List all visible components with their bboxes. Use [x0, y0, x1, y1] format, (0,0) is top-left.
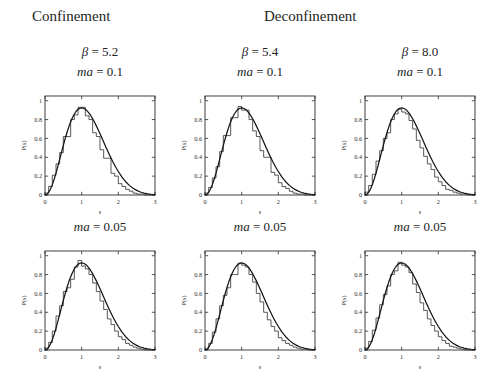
y-axis-label: P(s) [340, 141, 348, 151]
y-tick-label: 0.8 [194, 116, 202, 123]
y-tick-label: 0.8 [354, 116, 362, 123]
x-tick-label: 0 [203, 353, 206, 360]
y-tick-label: 0 [199, 191, 202, 198]
y-tick-label: 0.8 [354, 271, 362, 278]
x-tick-label: 3 [313, 198, 316, 205]
y-axis-label: P(s) [180, 296, 188, 306]
x-tick-label: 0 [43, 198, 46, 205]
y-axis-label: P(s) [180, 141, 188, 151]
plot-panel-p-b80-ma01: 012300.20.40.60.81sP(s) [333, 88, 487, 217]
x-axis-label: s [419, 363, 422, 370]
x-tick-label: 2 [277, 198, 280, 205]
y-tick-label: 0.6 [34, 290, 42, 297]
y-tick-label: 0.8 [34, 116, 42, 123]
y-tick-label: 1 [39, 252, 42, 259]
plot-panel-p-b54-ma01: 012300.20.40.60.81sP(s) [173, 88, 327, 217]
y-tick-label: 0.2 [34, 327, 42, 334]
x-tick-label: 0 [363, 353, 366, 360]
y-tick-label: 0.4 [354, 153, 362, 160]
x-tick-label: 0 [43, 353, 46, 360]
panel-ma-label-p-b54-ma005: ma = 0.05 [200, 219, 320, 235]
x-tick-label: 3 [153, 198, 156, 205]
y-tick-label: 0.6 [194, 135, 202, 142]
panel-beta-label-p-b80-ma01: β = 8.0 [360, 44, 480, 60]
x-tick-label: 1 [400, 353, 403, 360]
y-tick-label: 0.4 [34, 308, 42, 315]
plot-panel-p-b52-ma01: 012300.20.40.60.81sP(s) [13, 88, 167, 217]
x-axis-label: s [99, 363, 102, 370]
y-tick-label: 0.2 [194, 327, 202, 334]
y-tick-label: 0.4 [34, 153, 42, 160]
y-tick-label: 0.4 [194, 153, 202, 160]
y-tick-label: 0.8 [34, 271, 42, 278]
y-tick-label: 1 [359, 252, 362, 259]
y-tick-label: 0 [199, 346, 202, 353]
y-axis-label: P(s) [20, 141, 28, 151]
theory-curve [365, 263, 475, 350]
panel-beta-label-p-b54-ma01: β = 5.4 [200, 44, 320, 60]
x-tick-label: 3 [473, 198, 476, 205]
theory-curve [205, 263, 315, 350]
figure-root: Confinement Deconfinement β = 5.2ma = 0.… [0, 0, 500, 382]
y-tick-label: 0.6 [34, 135, 42, 142]
y-tick-label: 0.2 [354, 172, 362, 179]
y-tick-label: 0.8 [194, 271, 202, 278]
y-tick-label: 0.2 [194, 172, 202, 179]
x-tick-label: 3 [473, 353, 476, 360]
group-title-confinement: Confinement [32, 8, 110, 25]
y-tick-label: 0 [359, 191, 362, 198]
y-tick-label: 0 [39, 191, 42, 198]
x-tick-label: 3 [153, 353, 156, 360]
x-tick-label: 1 [400, 198, 403, 205]
x-axis-label: s [259, 208, 262, 215]
x-tick-label: 1 [80, 198, 83, 205]
group-title-deconfinement: Deconfinement [264, 8, 356, 25]
y-axis-label: P(s) [20, 296, 28, 306]
panel-ma-label-p-b80-ma01: ma = 0.1 [360, 64, 480, 80]
x-axis-label: s [259, 363, 262, 370]
theory-curve [45, 108, 155, 195]
x-tick-label: 2 [117, 198, 120, 205]
x-tick-label: 2 [437, 353, 440, 360]
x-axis-label: s [419, 208, 422, 215]
y-axis-label: P(s) [340, 296, 348, 306]
panel-ma-label-p-b52-ma01: ma = 0.1 [40, 64, 160, 80]
y-tick-label: 0.6 [354, 135, 362, 142]
plot-panel-p-b52-ma005: 012300.20.40.60.81sP(s) [13, 243, 167, 372]
panel-ma-label-p-b80-ma005: ma = 0.05 [360, 219, 480, 235]
theory-curve [45, 263, 155, 350]
x-tick-label: 1 [80, 353, 83, 360]
y-tick-label: 1 [199, 252, 202, 259]
plot-panel-p-b54-ma005: 012300.20.40.60.81sP(s) [173, 243, 327, 372]
theory-curve [205, 108, 315, 195]
y-tick-label: 0.2 [34, 172, 42, 179]
x-tick-label: 1 [240, 353, 243, 360]
panel-ma-label-p-b54-ma01: ma = 0.1 [200, 64, 320, 80]
panel-ma-label-p-b52-ma005: ma = 0.05 [40, 219, 160, 235]
panel-beta-label-p-b52-ma01: β = 5.2 [40, 44, 160, 60]
y-tick-label: 1 [39, 97, 42, 104]
x-tick-label: 1 [240, 198, 243, 205]
y-tick-label: 0.2 [354, 327, 362, 334]
x-tick-label: 3 [313, 353, 316, 360]
plot-panel-p-b80-ma005: 012300.20.40.60.81sP(s) [333, 243, 487, 372]
x-tick-label: 0 [203, 198, 206, 205]
y-tick-label: 1 [359, 97, 362, 104]
y-tick-label: 0 [359, 346, 362, 353]
theory-curve [365, 108, 475, 195]
x-tick-label: 2 [277, 353, 280, 360]
y-tick-label: 0.4 [354, 308, 362, 315]
x-axis-label: s [99, 208, 102, 215]
x-tick-label: 2 [437, 198, 440, 205]
y-tick-label: 0.6 [354, 290, 362, 297]
x-tick-label: 0 [363, 198, 366, 205]
x-tick-label: 2 [117, 353, 120, 360]
y-tick-label: 0.4 [194, 308, 202, 315]
y-tick-label: 1 [199, 97, 202, 104]
y-tick-label: 0 [39, 346, 42, 353]
y-tick-label: 0.6 [194, 290, 202, 297]
